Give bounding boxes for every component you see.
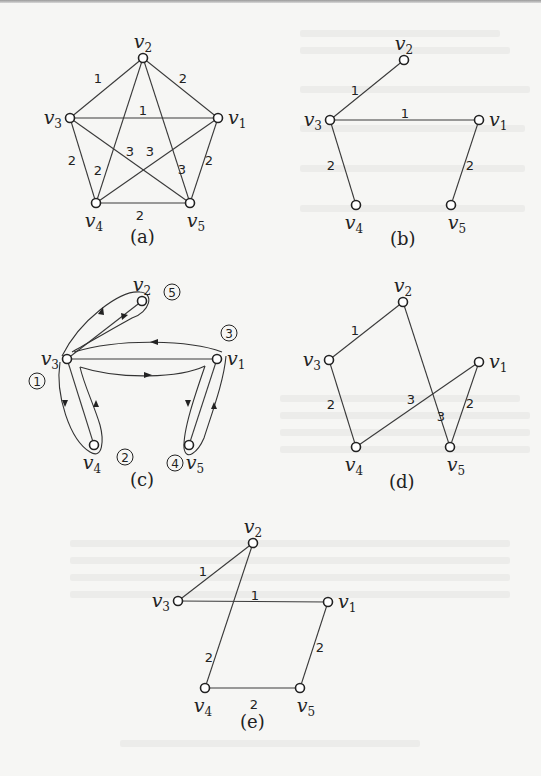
edge-weight: 2: [327, 158, 335, 173]
edge-a-v2-v4: [96, 58, 143, 203]
vertex-a-v3: [66, 114, 75, 123]
edge-a-v2-v1: [143, 58, 218, 118]
edge-weight: 2: [136, 208, 144, 223]
vertex-label: v2: [134, 30, 152, 55]
edge-weight: 2: [250, 697, 258, 712]
edge-weight: 1: [351, 323, 359, 338]
step-marker-number: 4: [171, 457, 179, 471]
caption-e: (e): [240, 711, 265, 732]
edge-a-v3-v5: [70, 118, 190, 203]
vertex-d-v5: [446, 443, 455, 452]
vertex-c-v1: [213, 355, 222, 364]
vertex-b-v1: [475, 116, 484, 125]
tour-arc-v1-bottom: [80, 366, 205, 376]
vertex-label: v5: [187, 209, 205, 234]
vertex-label: v4: [345, 453, 364, 478]
vertex-label: v5: [297, 694, 315, 719]
arrow-icon: [211, 402, 217, 409]
vertex-label: v2: [244, 515, 262, 540]
vertex-label: v1: [338, 590, 356, 615]
edge-weight: 1: [351, 83, 359, 98]
edge-weight: 1: [199, 564, 207, 579]
edge-d-v5-v1: [450, 362, 479, 447]
edge-a-v1-v4: [96, 118, 218, 203]
edge-weight: 2: [327, 397, 335, 412]
vertex-label: v4: [345, 211, 364, 236]
vertex-label: v1: [489, 350, 507, 375]
vertex-d-v1: [475, 358, 484, 367]
caption-a: (a): [130, 226, 155, 247]
vertex-d-v3: [325, 356, 334, 365]
step-markers-layer: 12345: [29, 284, 237, 471]
edge-weight: 1: [139, 103, 147, 118]
edge-weight: 3: [126, 144, 134, 159]
step-marker-number: 3: [225, 327, 233, 341]
arrow-icon: [93, 400, 99, 407]
edge-weight: 2: [94, 163, 102, 178]
edge-weight: 1: [401, 106, 409, 121]
arrow-icon: [121, 313, 128, 320]
vertex-label: v4: [83, 451, 102, 476]
vertex-label: v5: [447, 453, 465, 478]
vertex-b-v3: [326, 116, 335, 125]
caption-b: (b): [390, 228, 416, 249]
vertex-label: v3: [44, 106, 62, 131]
edge-weight: 2: [205, 650, 213, 665]
step-marker-number: 2: [121, 451, 129, 465]
vertex-label: v1: [228, 106, 246, 131]
edge-e-v3-v2: [178, 543, 253, 601]
vertex-a-v1: [214, 114, 223, 123]
arrow-icon: [150, 339, 158, 345]
edge-d-v1-v4: [356, 362, 479, 447]
edge-weight: 2: [68, 153, 76, 168]
tour-arc-v1-top: [74, 342, 222, 352]
captions-layer: (a) (b) (c) (d) (e): [130, 226, 416, 732]
vertex-label: v3: [304, 108, 322, 133]
edge-weight: 1: [94, 71, 102, 86]
caption-c: (c): [130, 469, 154, 490]
vertex-e-v5: [296, 684, 305, 693]
vertex-label: v3: [41, 347, 59, 372]
arrow-icon: [144, 372, 152, 378]
edge-weight: 3: [437, 409, 445, 424]
vertex-labels-layer: v1v2v3v4v5v1v2v3v4v5v1v2v3v4v5v1v2v3v4v5…: [41, 30, 508, 719]
vertex-e-v3: [174, 597, 183, 606]
arrow-icon: [185, 400, 191, 407]
edge-weight: 1: [251, 588, 259, 603]
edge-weight: 2: [205, 153, 213, 168]
vertex-e-v1: [324, 598, 333, 607]
edge-weight: 2: [466, 396, 474, 411]
edge-b-v3-v2: [330, 60, 404, 120]
step-marker-number: 1: [33, 375, 41, 389]
weights-layer: 121222233311221323211222: [68, 71, 474, 712]
vertex-c-v3: [63, 355, 72, 364]
edge-weight: 2: [316, 640, 324, 655]
vertex-a-v5: [186, 199, 195, 208]
tour-loop-v2: [62, 292, 149, 356]
vertex-label: v4: [85, 209, 104, 234]
vertex-label: v5: [186, 451, 204, 476]
vertex-label: v4: [194, 694, 213, 719]
vertex-e-v4: [201, 684, 210, 693]
vertex-label: v5: [448, 211, 466, 236]
edge-d-v3-v2: [329, 302, 403, 360]
vertex-label: v2: [133, 273, 151, 298]
vertex-label: v1: [227, 347, 245, 372]
edge-weight: 3: [146, 144, 154, 159]
vertex-b-v4: [352, 201, 361, 210]
vertex-label: v2: [395, 32, 413, 57]
caption-d: (d): [389, 471, 415, 492]
vertex-c-v5: [185, 441, 194, 450]
edge-weight: 2: [466, 158, 474, 173]
vertex-label: v2: [394, 274, 412, 299]
step-marker-number: 5: [168, 286, 176, 300]
vertex-a-v4: [92, 199, 101, 208]
edge-e-v4-v2: [205, 543, 253, 688]
vertex-label: v3: [152, 589, 170, 614]
edge-weight: 3: [407, 392, 415, 407]
edge-c-v3-v4: [67, 359, 94, 445]
vertex-c-v4: [90, 441, 99, 450]
vertex-d-v4: [352, 443, 361, 452]
vertex-label: v3: [303, 348, 321, 373]
vertex-label: v1: [489, 108, 507, 133]
